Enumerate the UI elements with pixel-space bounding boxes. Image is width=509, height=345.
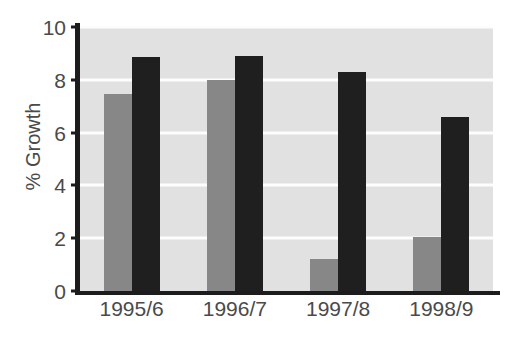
y-tick-label: 10: [43, 17, 66, 38]
bar-series-black-1996-7: [235, 56, 263, 291]
bar-series-gray-1995-6: [104, 94, 132, 291]
bar-series-black-1998-9: [441, 117, 469, 291]
x-tick-label: 1995/6: [100, 297, 164, 320]
x-axis-line: [75, 291, 500, 295]
y-tick-label: 2: [54, 228, 66, 249]
bar-chart: % Growth 0246810 1995/61996/71997/81998/…: [0, 0, 509, 345]
bar-series-black-1995-6: [132, 57, 160, 291]
bar-series-black-1997-8: [338, 72, 366, 291]
y-tick-label: 8: [54, 69, 66, 90]
y-tick-label: 4: [54, 175, 66, 196]
y-axis-ticks: 0246810: [0, 0, 80, 345]
x-tick-label: 1998/9: [409, 297, 473, 320]
bar-layer: [80, 27, 493, 291]
bar-series-gray-1997-8: [310, 259, 338, 291]
y-tick-label: 6: [54, 122, 66, 143]
x-tick-label: 1997/8: [306, 297, 370, 320]
bar-series-gray-1996-7: [207, 80, 235, 291]
y-tick-label: 0: [54, 281, 66, 302]
bar-series-gray-1998-9: [413, 237, 441, 291]
x-axis-ticks: 1995/61996/71997/81998/9: [80, 297, 493, 337]
x-tick-label: 1996/7: [203, 297, 267, 320]
